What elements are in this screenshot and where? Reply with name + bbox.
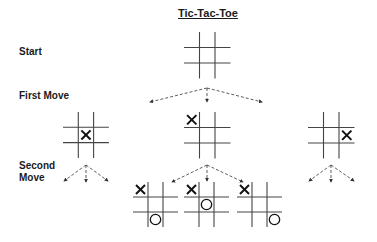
branch-arrows [172, 165, 243, 182]
o-mark-icon [269, 214, 279, 224]
branch-arrows [64, 165, 108, 182]
arrow-icon [86, 165, 108, 181]
arrow-icon [309, 165, 331, 181]
board-first-edge [308, 112, 355, 159]
branch-arrows [309, 165, 354, 182]
x-mark-icon [81, 130, 90, 139]
board-second-3 [237, 182, 282, 227]
o-mark-icon [150, 214, 160, 224]
boards-layer [63, 32, 355, 227]
x-mark-icon [187, 115, 196, 124]
x-mark-icon [342, 131, 351, 140]
arrow-icon [64, 165, 86, 181]
o-mark-icon [201, 199, 211, 209]
board-first-corner [184, 112, 231, 159]
x-mark-icon [136, 185, 145, 194]
branch-arrows [150, 88, 262, 102]
arrow-icon [172, 165, 207, 182]
board-start [184, 32, 231, 79]
x-mark-icon [240, 185, 249, 194]
arrows-layer [64, 88, 354, 182]
board-first-center [63, 112, 109, 158]
game-tree-diagram [0, 0, 377, 242]
arrow-icon [150, 88, 207, 102]
board-second-1 [133, 182, 178, 227]
x-mark-icon [187, 185, 196, 194]
arrow-icon [207, 165, 243, 182]
arrow-icon [207, 88, 262, 102]
board-second-2 [184, 182, 229, 227]
arrow-icon [331, 165, 354, 181]
